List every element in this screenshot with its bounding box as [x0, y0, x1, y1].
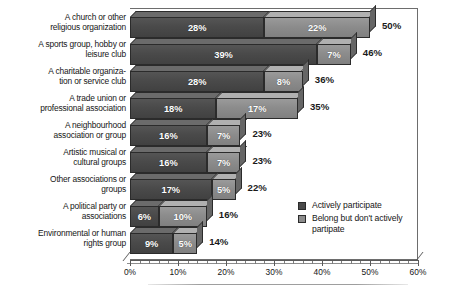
x-axis-tick-label: 40%: [314, 267, 331, 277]
category-label: A charitable organiza- tion or service c…: [0, 66, 126, 86]
category-axis-labels: A church or other religious organization…: [0, 12, 126, 260]
x-axis-tick-label: 60%: [410, 267, 427, 277]
x-axis-tick-label: 30%: [266, 267, 283, 277]
x-axis-minor-tick: [312, 261, 313, 264]
x-axis-minor-tick: [284, 261, 285, 264]
x-axis-minor-tick: [188, 261, 189, 264]
x-axis-tick-label: 0%: [124, 267, 136, 277]
x-axis-minor-tick: [207, 261, 208, 264]
x-axis-minor-tick: [255, 261, 256, 264]
bottom-decorative-rule: [148, 284, 408, 285]
x-axis-major-tick: [130, 261, 131, 266]
x-axis-minor-tick: [351, 261, 352, 264]
x-axis-minor-tick: [293, 261, 294, 264]
x-axis-minor-tick: [332, 261, 333, 264]
x-axis-major-tick: [226, 261, 227, 266]
x-axis-major-tick: [322, 261, 323, 266]
x-axis-minor-tick: [216, 261, 217, 264]
legend-label: Belong but don't actively partipate: [312, 213, 402, 234]
x-axis-tick-label: 20%: [218, 267, 235, 277]
x-axis-major-tick: [274, 261, 275, 266]
x-axis-minor-tick: [236, 261, 237, 264]
legend-item: Actively participate: [298, 200, 418, 210]
chart-legend: Actively participateBelong but don't act…: [298, 200, 418, 237]
legend-label: Actively participate: [312, 200, 382, 210]
x-axis-minor-tick: [197, 261, 198, 264]
x-axis-minor-tick: [341, 261, 342, 264]
stacked-bar-chart: A church or other religious organization…: [0, 0, 450, 297]
x-axis-line-shadow: [127, 263, 419, 264]
x-axis-major-tick: [418, 261, 419, 266]
category-label: A neighbourhood association or group: [0, 120, 126, 140]
x-axis-minor-tick: [168, 261, 169, 264]
category-label: A sports group, hobby or leisure club: [0, 39, 126, 59]
x-axis-minor-tick: [303, 261, 304, 264]
x-axis-tick-label: 10%: [170, 267, 187, 277]
legend-swatch-icon: [298, 202, 306, 210]
x-axis-minor-tick: [399, 261, 400, 264]
category-label: Artistic musical or cultural groups: [0, 147, 126, 167]
category-label: A trade union or professional associatio…: [0, 93, 126, 113]
category-label: A church or other religious organization: [0, 12, 126, 32]
x-axis-minor-tick: [245, 261, 246, 264]
legend-item: Belong but don't actively partipate: [298, 213, 418, 234]
category-label: Other associations or groups: [0, 174, 126, 194]
x-axis-minor-tick: [159, 261, 160, 264]
x-axis-major-tick: [178, 261, 179, 266]
x-axis-minor-tick: [408, 261, 409, 264]
x-axis-tick-label: 50%: [362, 267, 379, 277]
category-label: A political party or associations: [0, 201, 126, 221]
x-axis-minor-tick: [264, 261, 265, 264]
x-axis-major-tick: [370, 261, 371, 266]
legend-swatch-icon: [298, 215, 306, 223]
category-label: Environmental or human rights group: [0, 228, 126, 248]
x-axis-minor-tick: [360, 261, 361, 264]
x-axis-minor-tick: [380, 261, 381, 264]
x-axis-minor-tick: [149, 261, 150, 264]
x-axis-minor-tick: [389, 261, 390, 264]
x-axis-minor-tick: [140, 261, 141, 264]
